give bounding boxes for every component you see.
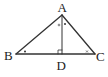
angle-mark-c-x-icon bbox=[86, 51, 88, 53]
label-b: B bbox=[4, 48, 13, 63]
triangle-diagram: A B C D bbox=[0, 0, 108, 77]
angle-mark-a-left-circle-icon bbox=[58, 24, 60, 26]
segment-ac bbox=[62, 15, 95, 54]
label-c: C bbox=[96, 49, 105, 64]
angle-mark-a-right-dot-icon bbox=[64, 23, 66, 25]
angle-mark-b-dot-icon bbox=[24, 51, 26, 53]
label-d: D bbox=[57, 58, 66, 73]
segment-ab bbox=[16, 15, 62, 54]
label-a: A bbox=[58, 0, 68, 15]
